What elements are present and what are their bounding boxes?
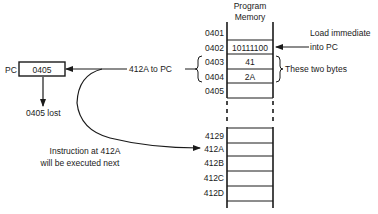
next-instruction-label-line2: will be executed next <box>40 158 121 168</box>
to-pc-label: 412A to PC <box>129 64 172 74</box>
memory-value-0403: 41 <box>245 57 255 67</box>
memory-title-line1: Program <box>234 1 267 11</box>
these-two-bytes-label: These two bytes <box>285 64 347 74</box>
program-counter-diagram: Program Memory 0401 0402 0403 0404 0405 … <box>0 0 378 214</box>
address-0401: 0401 <box>205 28 224 38</box>
load-immediate-label-line1: Load immediate <box>310 28 371 38</box>
address-412B: 412B <box>204 158 224 168</box>
right-brace-icon <box>276 56 283 82</box>
address-412C: 412C <box>204 173 224 183</box>
jump-arrow <box>77 69 200 148</box>
left-brace-icon <box>195 56 202 82</box>
address-0405: 0405 <box>205 86 224 96</box>
next-instruction-label-line1: Instruction at 412A <box>50 146 121 156</box>
address-4129: 4129 <box>205 131 224 141</box>
memory-column-lower <box>227 127 273 208</box>
memory-value-0404: 2A <box>245 72 256 82</box>
pc-value: 0405 <box>33 65 52 75</box>
address-0404: 0404 <box>205 72 224 82</box>
address-412D: 412D <box>204 188 224 198</box>
load-immediate-label-line2: into PC <box>310 42 338 52</box>
pc-lost-label: 0405 lost <box>26 108 61 118</box>
address-412A: 412A <box>204 144 224 154</box>
address-0403: 0403 <box>205 57 224 67</box>
memory-title-line2: Memory <box>235 12 266 22</box>
address-0402: 0402 <box>205 43 224 53</box>
pc-label: PC <box>5 65 17 75</box>
memory-value-0402: 10111100 <box>232 43 268 53</box>
